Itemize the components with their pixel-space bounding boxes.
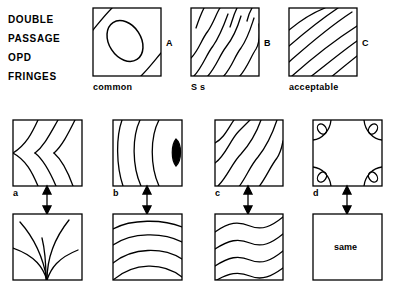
caption-ss: S s bbox=[191, 82, 205, 92]
double-passage-opd-fringes-figure: DOUBLE PASSAGE OPD FRINGES bbox=[0, 0, 393, 294]
arrow-a-head-down bbox=[43, 206, 51, 214]
arrow-b-head-up bbox=[143, 186, 151, 194]
panel-a-box bbox=[13, 120, 82, 186]
panel-letter-b: b bbox=[113, 188, 119, 198]
arrow-d-head-down bbox=[343, 206, 351, 214]
caption-common: common bbox=[93, 82, 132, 92]
panel-b-box bbox=[113, 120, 182, 186]
panel-letter-B: B bbox=[264, 38, 271, 48]
bottom-panel-d-label: same bbox=[334, 242, 357, 252]
panel-d-box bbox=[313, 120, 382, 186]
caption-acceptable: acceptable bbox=[289, 82, 339, 92]
connector-arrows bbox=[43, 186, 351, 214]
arrow-d-head-up bbox=[343, 186, 351, 194]
panel-letter-C: C bbox=[362, 38, 369, 48]
arrow-c-head-up bbox=[244, 186, 252, 194]
panel-letter-d: d bbox=[313, 188, 319, 198]
panel-letter-A: A bbox=[166, 38, 173, 48]
arrow-b-head-down bbox=[143, 206, 151, 214]
arrow-a-head-up bbox=[43, 186, 51, 194]
panel-letter-c: c bbox=[215, 188, 220, 198]
panel-letter-a: a bbox=[13, 188, 18, 198]
arrow-c-head-down bbox=[244, 206, 252, 214]
